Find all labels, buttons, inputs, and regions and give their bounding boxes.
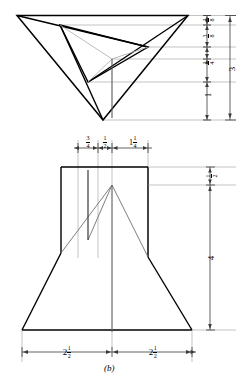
dim-whole: 1 bbox=[204, 93, 213, 97]
dim-denominator: 8 bbox=[209, 18, 215, 22]
dim-label-right-4: 4 bbox=[201, 249, 219, 267]
dim-numerator: 1 bbox=[67, 345, 71, 352]
dim-denominator: 4 bbox=[209, 61, 215, 65]
dim-denominator: 8 bbox=[209, 34, 215, 38]
dim-label-3-8-upper: 3 8 bbox=[198, 13, 216, 27]
dim-numerator: 1 bbox=[153, 345, 157, 352]
dim-denominator: 2 bbox=[212, 174, 218, 178]
dim-label-bottom-right-2-1-2: 2 1 2 bbox=[140, 344, 166, 360]
dim-denominator: 4 bbox=[133, 143, 137, 149]
dim-label-top-3-4: 3 4 bbox=[80, 135, 96, 149]
dim-numerator: 3 bbox=[202, 61, 209, 65]
dim-denominator: 2 bbox=[153, 353, 157, 359]
dim-label-right-1-2: 1 2 bbox=[201, 169, 219, 183]
dim-label-top-1-2: 1 2 bbox=[97, 135, 113, 149]
figure-caption: (b) bbox=[104, 363, 115, 373]
dim-denominator: 4 bbox=[86, 143, 90, 149]
dim-whole: 4 bbox=[206, 256, 216, 261]
dim-numerator: 3 bbox=[202, 18, 209, 22]
dim-denominator: 2 bbox=[103, 143, 107, 149]
dim-numerator: 1 bbox=[103, 135, 107, 142]
dim-label-3-8-lower: 3 8 bbox=[198, 29, 216, 43]
dim-label-bottom-left-2-1-2: 2 1 2 bbox=[54, 344, 80, 360]
dim-label-1: 1 bbox=[198, 87, 216, 103]
dim-label-top-1-1-4: 1 1 4 bbox=[122, 135, 144, 149]
dim-label-3-4: 3 4 bbox=[198, 56, 216, 70]
dim-numerator: 1 bbox=[205, 174, 212, 178]
dim-denominator: 2 bbox=[67, 353, 71, 359]
dim-numerator: 3 bbox=[86, 135, 90, 142]
dim-whole: 3 bbox=[227, 67, 237, 72]
dim-numerator: 1 bbox=[133, 135, 137, 142]
dim-numerator: 3 bbox=[202, 34, 209, 38]
drawing-sheet: 3 8 3 8 3 4 1 3 bbox=[0, 0, 241, 381]
front-view-bottom-extension-lines bbox=[22, 330, 192, 362]
front-view-inner-edges bbox=[61, 185, 148, 257]
front-view-right-extension-lines bbox=[148, 167, 236, 330]
dim-label-overall-3: 3 bbox=[222, 60, 240, 78]
